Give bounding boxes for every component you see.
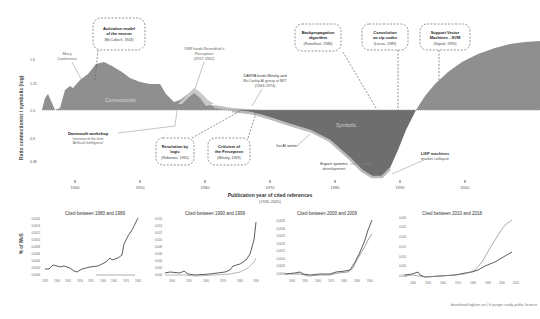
svg-text:(1963-1974): (1963-1974) bbox=[255, 84, 276, 88]
svg-text:0.004: 0.004 bbox=[155, 259, 162, 263]
svg-text:1.25: 1.25 bbox=[30, 82, 37, 86]
y-ticks: 1.6 1.25 1.0 0.6 0.48 bbox=[30, 58, 37, 164]
svg-text:0.0000: 0.0000 bbox=[276, 272, 285, 276]
svg-text:1960: 1960 bbox=[203, 279, 209, 283]
svg-text:Machines - SVM: Machines - SVM bbox=[430, 35, 461, 40]
svg-text:0.0006: 0.0006 bbox=[31, 252, 40, 256]
connectionist-rise bbox=[416, 41, 540, 110]
svg-text:(Rumelhart, 1986): (Rumelhart, 1986) bbox=[304, 42, 333, 46]
svg-text:McCarthy AI group at MIT: McCarthy AI group at MIT bbox=[243, 79, 287, 83]
svg-text:0.002: 0.002 bbox=[155, 266, 162, 270]
svg-text:Perceptron: Perceptron bbox=[195, 52, 214, 56]
main-chart: Connectionist Symbolic Ratio connectioni… bbox=[18, 18, 540, 204]
svg-text:0.48: 0.48 bbox=[30, 160, 37, 164]
svg-text:0.0014: 0.0014 bbox=[31, 224, 40, 228]
svg-text:0.015: 0.015 bbox=[399, 245, 406, 249]
svg-text:1950: 1950 bbox=[136, 185, 146, 190]
svg-text:0.0012: 0.0012 bbox=[31, 231, 40, 235]
svg-text:(Vapnik, 1995): (Vapnik, 1995) bbox=[433, 42, 456, 46]
annotation-onr: ONR funds Rosenblatt's Perceptron (1957-… bbox=[184, 47, 225, 89]
svg-text:0.010: 0.010 bbox=[399, 255, 406, 259]
annotation-lisp: LISP machines market collapse bbox=[392, 151, 450, 174]
figure: Connectionist Symbolic Ratio connectioni… bbox=[0, 0, 540, 319]
svg-text:1990: 1990 bbox=[485, 281, 491, 285]
svg-text:1.0: 1.0 bbox=[30, 109, 35, 113]
svg-text:1940: 1940 bbox=[410, 281, 416, 285]
svg-text:1965: 1965 bbox=[111, 279, 117, 283]
svg-text:0.005: 0.005 bbox=[399, 264, 406, 268]
svg-text:1.6: 1.6 bbox=[30, 58, 35, 62]
svg-text:on zip codes: on zip codes bbox=[373, 35, 398, 40]
x-axis-label: Publication year of cited references bbox=[228, 192, 313, 198]
svg-text:1980: 1980 bbox=[470, 281, 476, 285]
svg-text:0.014: 0.014 bbox=[155, 224, 162, 228]
svg-text:1970: 1970 bbox=[455, 281, 461, 285]
svg-text:(Minsky, 1969): (Minsky, 1969) bbox=[217, 156, 240, 160]
svg-text:0.0020: 0.0020 bbox=[276, 242, 285, 246]
svg-text:0.010: 0.010 bbox=[155, 238, 162, 242]
svg-text:Cited between 2010 and 2018: Cited between 2010 and 2018 bbox=[422, 211, 483, 216]
svg-text:1960: 1960 bbox=[315, 279, 321, 283]
svg-text:(Robinson, 1965): (Robinson, 1965) bbox=[161, 156, 189, 160]
annotation-ai-winter: 1st AI winter bbox=[276, 134, 310, 148]
svg-text:0.6: 0.6 bbox=[30, 137, 35, 141]
svg-text:1980: 1980 bbox=[331, 185, 341, 190]
svg-text:market collapse: market collapse bbox=[421, 156, 450, 161]
svg-text:the Perceptron: the Perceptron bbox=[215, 149, 244, 154]
svg-text:development: development bbox=[323, 166, 347, 171]
svg-text:Conference: Conference bbox=[57, 57, 77, 61]
small-chart-1990-1999: Cited between 1990 and 1999 0.016 0.014 … bbox=[155, 211, 259, 283]
svg-text:Macy: Macy bbox=[62, 52, 71, 56]
svg-text:1970: 1970 bbox=[220, 279, 226, 283]
x-ticks: 1940 1950 1960 1970 1980 1990 2000 bbox=[71, 180, 471, 190]
svg-text:1960: 1960 bbox=[201, 185, 211, 190]
annotation-darpa: DARPA funds Minsky and McCarthy AI group… bbox=[243, 74, 287, 106]
svg-text:1970: 1970 bbox=[123, 279, 129, 283]
footer-credit: download highres on | fr purger cindy pu… bbox=[451, 303, 537, 307]
svg-text:1990: 1990 bbox=[354, 279, 360, 283]
svg-text:1950: 1950 bbox=[186, 279, 192, 283]
small-chart-2010-2018: Cited between 2010 and 2018 0.030 0.025 … bbox=[399, 211, 519, 285]
annotation-conv: Convolution on zip codes (Lecun, 1989) bbox=[362, 24, 408, 112]
svg-text:Cited between 2000 and 2009: Cited between 2000 and 2009 bbox=[297, 211, 358, 216]
svg-text:0.0030: 0.0030 bbox=[276, 227, 285, 231]
region-label-connectionist: Connectionist bbox=[105, 97, 136, 103]
svg-text:"Artificial Intelligence": "Artificial Intelligence" bbox=[72, 141, 105, 145]
svg-text:0.0005: 0.0005 bbox=[276, 264, 285, 268]
svg-text:ONR funds Rosenblatt's: ONR funds Rosenblatt's bbox=[184, 47, 225, 51]
svg-text:2000: 2000 bbox=[499, 281, 505, 285]
svg-text:0.0000: 0.0000 bbox=[31, 273, 40, 277]
svg-text:1990: 1990 bbox=[253, 279, 259, 283]
svg-text:1970: 1970 bbox=[328, 279, 334, 283]
svg-text:0.0015: 0.0015 bbox=[276, 249, 285, 253]
svg-text:Cited between 1980 and 1989: Cited between 1980 and 1989 bbox=[65, 211, 126, 216]
small-chart-1980-1989: Cited between 1980 and 1989 0.0016 0.001… bbox=[31, 211, 141, 283]
svg-text:0.0010: 0.0010 bbox=[276, 257, 285, 261]
svg-text:0.020: 0.020 bbox=[399, 235, 406, 239]
svg-text:0.012: 0.012 bbox=[155, 231, 162, 235]
svg-text:0.0004: 0.0004 bbox=[31, 259, 40, 263]
svg-text:1960: 1960 bbox=[440, 281, 446, 285]
small-y-label: % of WoS bbox=[19, 233, 24, 254]
svg-text:1950: 1950 bbox=[425, 281, 431, 285]
svg-text:(1957-1962): (1957-1962) bbox=[194, 57, 215, 61]
svg-text:1955: 1955 bbox=[88, 279, 94, 283]
svg-text:1980: 1980 bbox=[237, 279, 243, 283]
annotation-criticism: Criticism of the Perceptron (Minsky, 196… bbox=[208, 113, 256, 165]
svg-text:1940: 1940 bbox=[289, 279, 295, 283]
svg-text:0.0008: 0.0008 bbox=[31, 245, 40, 249]
svg-text:0.0010: 0.0010 bbox=[31, 238, 40, 242]
svg-text:0.008: 0.008 bbox=[155, 245, 162, 249]
svg-text:1940: 1940 bbox=[169, 279, 175, 283]
svg-text:1940: 1940 bbox=[54, 279, 60, 283]
small-chart-2000-2009: Cited between 2000 and 2009 0.0035 0.003… bbox=[276, 211, 373, 283]
svg-text:(Lecun, 1989): (Lecun, 1989) bbox=[374, 42, 396, 46]
svg-text:1960: 1960 bbox=[100, 279, 106, 283]
svg-text:of the neuron: of the neuron bbox=[106, 31, 132, 36]
svg-text:1980: 1980 bbox=[341, 279, 347, 283]
svg-text:1980: 1980 bbox=[135, 279, 141, 283]
connectionist-area bbox=[42, 62, 232, 110]
svg-text:0.000: 0.000 bbox=[155, 273, 162, 277]
svg-text:(McCulloch, 1943): (McCulloch, 1943) bbox=[104, 38, 133, 42]
svg-text:1950: 1950 bbox=[302, 279, 308, 283]
